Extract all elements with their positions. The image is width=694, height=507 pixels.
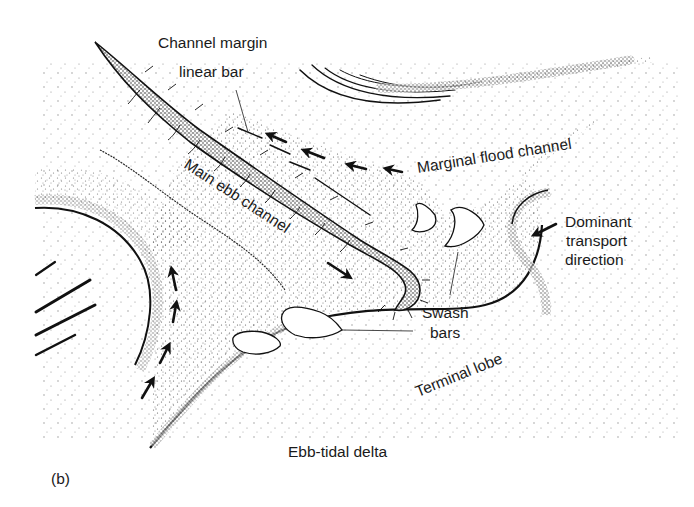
label-channel-margin-line1: Channel margin xyxy=(158,34,267,51)
label-dominant-line2: transport xyxy=(566,232,628,249)
label-dominant-line1: Dominant xyxy=(565,213,632,230)
label-dominant-line3: direction xyxy=(565,251,624,268)
label-swash-line1: Swash xyxy=(422,304,469,321)
label-channel-margin-line2: linear bar xyxy=(179,63,244,80)
label-swash-line2: bars xyxy=(430,324,460,341)
label-ebb-tidal-delta: Ebb-tidal delta xyxy=(288,443,387,460)
panel-label: (b) xyxy=(51,470,70,487)
ebb-tidal-delta-diagram: Channel margin linear bar Marginal flood… xyxy=(0,0,694,507)
